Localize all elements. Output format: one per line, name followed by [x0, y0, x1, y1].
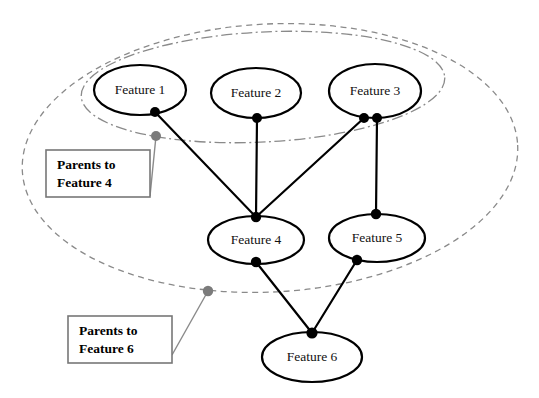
port-dot-f4-5 [251, 257, 261, 267]
edge-f5-to-f6 [312, 260, 357, 333]
edge-f4-to-f6 [256, 262, 312, 333]
callout-feature-4-line-2: Feature 4 [57, 175, 112, 190]
leader-line-parents-of-feature-4 [150, 136, 156, 196]
edge-f3-to-f4 [256, 118, 364, 217]
node-f1-label: Feature 1 [115, 82, 166, 97]
port-dot-f2-1 [252, 113, 262, 123]
node-f2[interactable]: Feature 2 [211, 68, 301, 118]
leader-line-parents-of-feature-6 [172, 291, 208, 355]
callout-feature-6-line-2: Feature 6 [79, 341, 134, 356]
edge-f2-to-f4 [256, 118, 257, 217]
node-f3-label: Feature 3 [350, 83, 401, 98]
node-f5[interactable]: Feature 5 [329, 214, 425, 262]
edge-f3-to-f5 [376, 118, 377, 214]
anchor-dot-parents-of-feature-6 [203, 286, 213, 296]
node-f3[interactable]: Feature 3 [329, 64, 421, 118]
node-f2-label: Feature 2 [231, 85, 282, 100]
callout-feature-6: Parents to Feature 6 [68, 316, 172, 363]
edge-f1-to-f4 [155, 112, 256, 217]
callout-feature-6-line-1: Parents to [79, 323, 138, 338]
node-f6[interactable]: Feature 6 [262, 332, 362, 382]
node-f4-label: Feature 4 [231, 232, 282, 247]
node-f1[interactable]: Feature 1 [94, 65, 186, 115]
diagram-canvas: Feature 1Feature 2Feature 3Feature 4Feat… [0, 0, 539, 398]
node-f5-label: Feature 5 [352, 230, 403, 245]
callout-feature-4: Parents to Feature 4 [46, 150, 150, 197]
port-dot-f5-7 [352, 255, 362, 265]
port-dot-f3-3 [372, 113, 382, 123]
port-dot-f5-6 [371, 209, 381, 219]
port-dot-f3-2 [359, 113, 369, 123]
callout-feature-4-line-1: Parents to [57, 157, 116, 172]
port-dot-f1-0 [150, 107, 160, 117]
callout-layer: Parents to Feature 4 Parents to Feature … [46, 150, 172, 363]
port-dot-f6-8 [306, 327, 317, 338]
node-f6-label: Feature 6 [287, 349, 338, 364]
feature-dependency-diagram: Feature 1Feature 2Feature 3Feature 4Feat… [0, 0, 539, 398]
anchor-dot-parents-of-feature-4 [151, 131, 161, 141]
port-dot-f4-4 [251, 212, 261, 222]
node-f4[interactable]: Feature 4 [208, 216, 304, 264]
